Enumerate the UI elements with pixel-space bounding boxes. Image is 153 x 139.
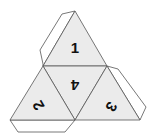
face-label-center: 4 — [70, 77, 79, 94]
tetrahedron-net: 1 4 2 3 — [0, 0, 153, 139]
face-label-top: 1 — [71, 39, 79, 56]
flap-bottom — [10, 120, 75, 132]
